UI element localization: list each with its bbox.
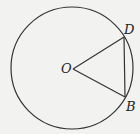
label-center-o: O — [61, 61, 72, 76]
label-point-d: D — [123, 22, 135, 37]
circle — [11, 7, 133, 129]
segment-db — [124, 37, 125, 97]
circle-diagram: O D B — [0, 0, 140, 134]
label-point-b: B — [125, 99, 136, 114]
segment-ob — [73, 69, 125, 97]
segment-od — [73, 37, 124, 69]
